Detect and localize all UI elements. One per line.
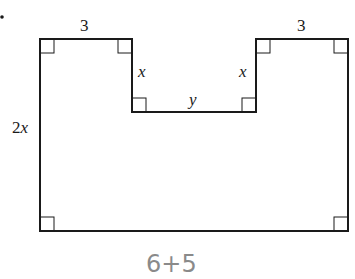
label-top-left-width: 3 — [80, 16, 89, 35]
right-angle-marker-top-left — [40, 39, 54, 53]
figure-outline — [40, 39, 348, 231]
handwritten-note: 6+5 — [146, 250, 197, 278]
right-angle-marker-top-right-inner — [256, 39, 270, 53]
label-top-right-width: 3 — [297, 16, 306, 35]
label-left-height-var: x — [20, 118, 29, 137]
label-left-height: 2x — [12, 118, 29, 137]
label-right-notch-height: x — [238, 62, 247, 81]
right-angle-marker-top-right — [334, 39, 348, 53]
right-angle-markers — [40, 39, 348, 231]
label-left-height-coef: 2 — [12, 118, 21, 137]
right-angle-marker-top-left-inner — [118, 39, 132, 53]
right-angle-marker-notch-right — [242, 98, 256, 112]
label-left-notch-height: x — [137, 62, 146, 81]
right-angle-marker-notch-left — [132, 98, 146, 112]
right-angle-marker-bottom-left — [40, 217, 54, 231]
label-notch-width: y — [187, 90, 197, 109]
bullet-dot — [0, 15, 4, 19]
geometry-diagram: 3 3 x x y 2x 6+5 — [0, 0, 355, 279]
right-angle-marker-bottom-right — [334, 217, 348, 231]
